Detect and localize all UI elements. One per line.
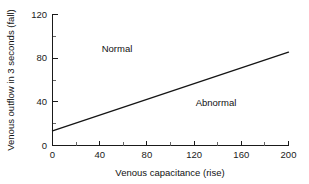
region-label-abnormal: Abnormal — [196, 97, 237, 108]
region-label-normal: Normal — [102, 43, 133, 54]
y-tick-label-120: 120 — [31, 9, 47, 20]
x-tick-label-120: 120 — [186, 149, 202, 160]
chart-canvas: 0 40 80 120 0 40 80 120 160 200 Normal A… — [0, 0, 309, 184]
x-tick-label-80: 80 — [142, 149, 153, 160]
x-tick-label-160: 160 — [233, 149, 249, 160]
x-tick-label-200: 200 — [281, 149, 297, 160]
y-tick-label-80: 80 — [36, 52, 47, 63]
x-axis-title: Venous capacitance (rise) — [115, 167, 224, 178]
y-axis-title: Venous outflow in 3 seconds (fall) — [5, 9, 16, 151]
x-tick-label-40: 40 — [94, 149, 105, 160]
y-tick-label-0: 0 — [42, 140, 47, 151]
x-tick-label-0: 0 — [50, 149, 55, 160]
discriminant-line — [53, 52, 289, 131]
y-tick-label-40: 40 — [36, 96, 47, 107]
chart-figure: 0 40 80 120 0 40 80 120 160 200 Normal A… — [0, 0, 309, 184]
